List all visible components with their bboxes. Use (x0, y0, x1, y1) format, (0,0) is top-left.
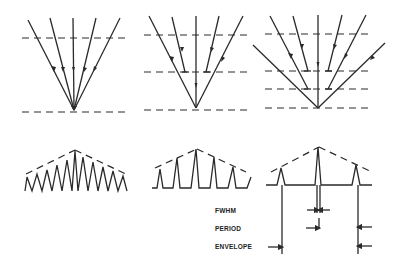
ray-diagram-1 (22, 18, 127, 112)
envelope-dimension (268, 246, 372, 247)
ray-diagram-3 (253, 15, 385, 108)
ray-diagram-2 (144, 16, 248, 110)
diagram-canvas (0, 0, 404, 268)
period-label: PERIOD (215, 225, 241, 232)
envelope-label: ENVELOPE (215, 243, 252, 250)
spectrum-3 (266, 147, 372, 254)
spectrum-1 (25, 150, 128, 191)
period-dimension (306, 227, 372, 228)
fwhm-label: FWHM (215, 207, 236, 214)
spectrum-2 (152, 149, 251, 188)
